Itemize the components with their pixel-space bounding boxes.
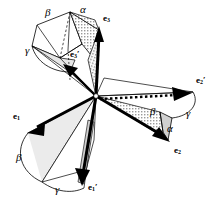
arrow-e2p-head: [172, 87, 192, 101]
bottom-fan-arc: [42, 182, 84, 191]
label-beta-top: β: [45, 7, 50, 18]
label-alpha-top: α: [80, 4, 86, 15]
origin-point: [94, 94, 99, 99]
label-e2-prime: e2′: [196, 76, 206, 85]
label-beta-left: β: [16, 152, 21, 163]
label-e2p-prime: ′: [203, 75, 206, 85]
label-e3p-prime: ′: [77, 49, 80, 59]
top-polyhedron-cluster: [32, 12, 99, 96]
label-e3-prime: e3′: [70, 50, 80, 59]
label-e1p-prime: ′: [95, 182, 98, 192]
label-e1: e1: [13, 112, 20, 121]
label-alpha-right: α: [167, 123, 173, 134]
right-cone-cluster: [96, 78, 195, 140]
label-beta-right: β: [150, 106, 155, 117]
label-gamma-bottom: γ: [55, 184, 59, 195]
label-e1-prime: e1′: [88, 183, 98, 192]
label-e3-sub: 3: [107, 17, 110, 23]
label-gamma-right: γ: [186, 108, 190, 119]
vector-diagram-canvas: [0, 0, 216, 211]
label-e2-sub: 2: [178, 149, 181, 155]
label-e3: e3: [103, 14, 110, 23]
label-e2: e2: [174, 146, 181, 155]
label-gamma-top: γ: [25, 45, 29, 56]
label-e1-sub: 1: [17, 115, 20, 121]
